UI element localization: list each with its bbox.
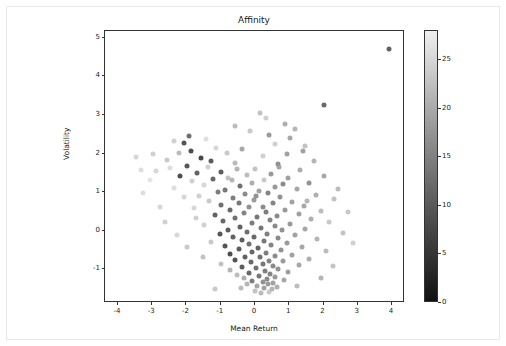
colorbar-tick-label: 20 (442, 104, 451, 112)
scatter-point (150, 152, 155, 157)
scatter-point (254, 215, 259, 220)
scatter-point (257, 273, 262, 278)
x-tick-mark (117, 302, 118, 305)
scatter-point (330, 264, 335, 269)
scatter-point (248, 260, 253, 265)
y-tick-mark (102, 230, 105, 231)
scatter-point (168, 165, 173, 170)
scatter-point (174, 233, 179, 238)
scatter-point (258, 291, 263, 296)
scatter-point (190, 179, 195, 184)
scatter-point (238, 224, 243, 229)
colorbar-tick-mark (438, 302, 441, 303)
scatter-point (256, 246, 261, 251)
x-tick-mark (185, 302, 186, 305)
scatter-point (250, 220, 255, 225)
scatter-point (275, 214, 280, 219)
colorbar-tick-label: 25 (442, 55, 451, 63)
scatter-point (238, 184, 243, 189)
scatter-point (219, 169, 224, 174)
scatter-point (209, 158, 214, 163)
scatter-point (296, 263, 301, 268)
scatter-point (200, 254, 205, 259)
scatter-point (272, 253, 277, 258)
figure-container: Affinity -4-3-2-101234-1012345 Mean Retu… (0, 0, 506, 346)
scatter-point (252, 288, 257, 293)
scatter-point (185, 245, 190, 250)
scatter-point (226, 175, 231, 180)
scatter-point (245, 229, 250, 234)
scatter-point (346, 210, 351, 215)
scatter-point (335, 187, 340, 192)
scatter-point (267, 133, 272, 138)
x-tick-mark (220, 302, 221, 305)
x-tick-label: -2 (182, 307, 189, 315)
scatter-point (258, 111, 263, 116)
scatter-point (280, 228, 285, 233)
scatter-point (272, 142, 277, 147)
scatter-point (192, 206, 197, 211)
scatter-point (270, 201, 275, 206)
x-tick-label: 1 (286, 307, 290, 315)
scatter-point (228, 251, 233, 256)
scatter-point (332, 196, 337, 201)
scatter-point (181, 140, 186, 145)
scatter-point (236, 246, 241, 251)
scatter-point (258, 255, 263, 260)
scatter-point (246, 242, 251, 247)
x-tick-label: -3 (148, 307, 155, 315)
scatter-point (318, 275, 323, 280)
scatter-point (258, 225, 263, 230)
scatter-point (265, 231, 270, 236)
scatter-point (222, 188, 227, 193)
scatter-point (287, 135, 292, 140)
scatter-point (202, 183, 207, 188)
scatter-point (246, 270, 251, 275)
scatter-point (284, 241, 289, 246)
scatter-point (241, 211, 246, 216)
scatter-point (341, 230, 346, 235)
chart-title: Affinity (104, 15, 404, 25)
scatter-point (198, 156, 203, 161)
scatter-point (171, 138, 176, 143)
scatter-point (243, 254, 248, 259)
scatter-point (214, 145, 219, 150)
y-tick-label: -1 (78, 264, 100, 272)
x-axis-label: Mean Return (104, 324, 404, 333)
scatter-point (257, 189, 262, 194)
scatter-point (293, 233, 298, 238)
x-tick-mark (288, 302, 289, 305)
scatter-point (286, 175, 291, 180)
y-tick-label: 1 (78, 187, 100, 195)
scatter-point (250, 181, 255, 186)
y-axis-label-text: Volatility (62, 128, 71, 160)
scatter-point (323, 248, 328, 253)
colorbar-tick-mark (438, 108, 441, 109)
scatter-point (287, 221, 292, 226)
scatter-point (273, 274, 278, 279)
scatter-point (226, 227, 231, 232)
scatter-point (202, 223, 207, 228)
colorbar-tick-mark (438, 253, 441, 254)
scatter-point (157, 204, 162, 209)
scatter-point (252, 234, 257, 239)
scatter-point (262, 269, 267, 274)
scatter-point (246, 205, 251, 210)
scatter-point (313, 192, 318, 197)
scatter-point (301, 203, 306, 208)
x-tick-label: -4 (113, 307, 120, 315)
scatter-point (306, 256, 311, 261)
y-tick-mark (102, 191, 105, 192)
y-tick-mark (102, 153, 105, 154)
scatter-point (238, 285, 243, 290)
scatter-point (212, 212, 217, 217)
scatter-point (315, 237, 320, 242)
x-tick-mark (151, 302, 152, 305)
scatter-point (267, 258, 272, 263)
scatter-point (276, 165, 281, 170)
scatter-point (262, 286, 267, 291)
scatter-point (286, 270, 291, 275)
y-tick-label: 4 (78, 71, 100, 79)
scatter-point (275, 266, 280, 271)
scatter-point (209, 239, 214, 244)
